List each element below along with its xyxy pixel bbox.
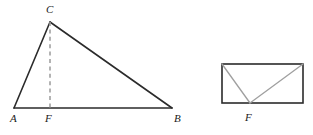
vertex-label-c: C bbox=[46, 4, 53, 15]
vertex-label-b: B bbox=[174, 113, 181, 124]
rectangle-cevian-topright-to-F bbox=[250, 64, 303, 103]
vertex-label-f-triangle: F bbox=[45, 113, 52, 124]
rectangle-cevian-topleft-to-F bbox=[222, 64, 250, 103]
triangle-side-CB bbox=[50, 22, 172, 108]
triangle-side-AC bbox=[14, 22, 50, 108]
rectangle-outline bbox=[222, 64, 303, 103]
geometry-figure-canvas: A F B C F bbox=[0, 0, 313, 135]
vertex-label-f-rectangle: F bbox=[245, 112, 252, 123]
rectangle-group bbox=[222, 64, 303, 103]
vertex-label-a: A bbox=[10, 113, 17, 124]
triangle-group bbox=[14, 22, 172, 108]
